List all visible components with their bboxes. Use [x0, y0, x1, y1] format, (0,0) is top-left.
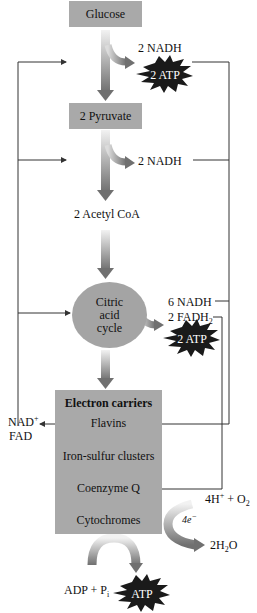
citric-label-line3: cycle	[97, 322, 122, 335]
electrons-label: 4e−	[182, 512, 197, 525]
pyruvate-nadh-label: 2 NADH	[138, 154, 182, 169]
electron-carriers-box: Electron carriers Flavins Iron-sulfur cl…	[55, 390, 162, 534]
cycle-atp-label: 2 ATP	[167, 332, 217, 347]
oxygen-reactants-label: 4H+ + O2	[205, 491, 250, 508]
acetyl-coa-label: 2 Acetyl CoA	[74, 207, 140, 222]
nadh-delivery-line	[152, 62, 229, 424]
pyruvate-box: 2 Pyruvate	[69, 103, 142, 129]
glycolysis-atp-label: 2 ATP	[140, 68, 190, 83]
nad-fad-return-line	[18, 62, 73, 425]
carrier-coenzyme-q: Coenzyme Q	[55, 481, 162, 496]
glucose-label: Glucose	[86, 7, 125, 22]
branch-arrow-pyruvate	[108, 145, 135, 169]
citric-acid-cycle-circle: Citric acid cycle	[72, 282, 147, 348]
water-label: 2H2O	[210, 538, 237, 554]
flow-arrow-pyruvate-acetyl	[97, 130, 114, 201]
carrier-flavins: Flavins	[55, 416, 162, 431]
carrier-cytochromes: Cytochromes	[55, 513, 162, 528]
glycolysis-nadh-label: 2 NADH	[138, 41, 182, 56]
flow-arrow-acetyl-cycle	[97, 230, 114, 279]
atp-synthesis-arrow	[92, 538, 143, 573]
pyruvate-label: 2 Pyruvate	[80, 109, 132, 124]
glucose-box: Glucose	[69, 1, 142, 27]
fad-label: FAD	[9, 429, 32, 444]
cycle-fadh2-label: 2 FADH2	[168, 310, 213, 326]
adp-pi-label: ADP + Pi	[64, 583, 109, 599]
cycle-nadh-label: 6 NADH	[168, 295, 212, 310]
citric-label-line2: acid	[100, 309, 120, 322]
flow-arrow-glucose-pyruvate	[97, 30, 114, 101]
branch-arrow-glycolysis	[108, 45, 135, 69]
phosphorylation-atp-label: ATP	[117, 587, 167, 602]
electron-carriers-title: Electron carriers	[55, 396, 162, 411]
nad-label: NAD+	[8, 414, 39, 430]
carrier-iron-sulfur-clusters: Iron-sulfur clusters	[55, 449, 162, 464]
citric-label-line1: Citric	[96, 296, 123, 309]
flow-arrow-cycle-carriers	[97, 350, 114, 389]
